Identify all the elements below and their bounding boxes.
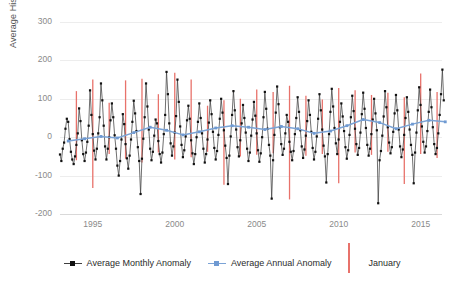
monthly-point [429, 88, 431, 90]
monthly-point [350, 116, 352, 118]
monthly-point [156, 122, 158, 124]
monthly-point [66, 118, 68, 120]
monthly-point [175, 115, 177, 117]
monthly-point [101, 99, 103, 101]
monthly-point [59, 153, 61, 155]
monthly-point [264, 91, 266, 93]
monthly-point [298, 111, 300, 113]
monthly-point [137, 146, 139, 148]
monthly-point [83, 160, 85, 162]
legend-label-monthly: Average Monthly Anomaly [87, 258, 191, 268]
monthly-point [201, 132, 203, 134]
gridline [60, 214, 442, 215]
monthly-point [331, 88, 333, 90]
monthly-point [302, 157, 304, 159]
monthly-point [262, 116, 264, 118]
monthly-anomaly-markers [59, 69, 445, 205]
monthly-point [205, 153, 207, 155]
annual-point [116, 137, 119, 140]
monthly-point [314, 151, 316, 153]
monthly-point [439, 114, 441, 116]
monthly-point [186, 119, 188, 121]
monthly-point [152, 151, 154, 153]
monthly-point [290, 151, 292, 153]
monthly-point [418, 86, 420, 88]
monthly-point [378, 159, 380, 161]
monthly-point [377, 202, 379, 204]
monthly-point [393, 112, 395, 114]
monthly-point [261, 136, 263, 138]
monthly-point [119, 160, 121, 162]
monthly-point [163, 133, 165, 135]
monthly-point [232, 90, 234, 92]
monthly-point [291, 159, 293, 161]
monthly-point [336, 153, 338, 155]
monthly-point [275, 112, 277, 114]
monthly-point [213, 147, 215, 149]
monthly-point [105, 158, 107, 160]
y-axis-tick-labels: 3002001000-100-200 [0, 0, 58, 291]
monthly-point [273, 134, 275, 136]
x-axis-tick-label: 2010 [319, 219, 359, 229]
monthly-point [340, 102, 342, 104]
monthly-point [82, 153, 84, 155]
monthly-point [432, 126, 434, 128]
monthly-point [433, 143, 435, 145]
monthly-point [268, 144, 270, 146]
monthly-point [265, 108, 267, 110]
monthly-point [103, 125, 105, 127]
y-axis-tick-label: 300 [0, 16, 52, 26]
monthly-point [71, 158, 73, 160]
monthly-point [228, 155, 230, 157]
monthly-point [253, 101, 255, 103]
annual-point [67, 140, 70, 143]
monthly-point [286, 114, 288, 116]
legend-item-annual: Average Annual Anomaly [208, 258, 331, 268]
monthly-point [93, 150, 95, 152]
monthly-point [282, 154, 284, 156]
monthly-point [241, 122, 243, 124]
annual-point [296, 127, 299, 130]
monthly-point [126, 157, 128, 159]
monthly-point [227, 183, 229, 185]
monthly-point [224, 145, 226, 147]
monthly-point [317, 118, 319, 120]
monthly-point [171, 155, 173, 157]
monthly-point [399, 145, 401, 147]
monthly-point [369, 148, 371, 150]
monthly-point [157, 140, 159, 142]
monthly-point [145, 82, 147, 84]
monthly-point [220, 98, 222, 100]
monthly-point [138, 160, 140, 162]
data-series-svg [60, 22, 442, 214]
monthly-point [134, 112, 136, 114]
monthly-point [374, 112, 376, 114]
monthly-point [400, 156, 402, 158]
monthly-point [154, 118, 156, 120]
monthly-point [329, 111, 331, 113]
monthly-point [191, 152, 193, 154]
monthly-point [221, 112, 223, 114]
monthly-point [338, 138, 340, 140]
monthly-point [346, 158, 348, 160]
monthly-point [348, 134, 350, 136]
monthly-point [328, 133, 330, 135]
monthly-point [63, 141, 65, 143]
monthly-point [396, 109, 398, 111]
monthly-point [189, 118, 191, 120]
monthly-point [131, 121, 133, 123]
monthly-point [123, 123, 125, 125]
monthly-point [150, 159, 152, 161]
monthly-point [212, 131, 214, 133]
monthly-point [294, 133, 296, 135]
monthly-point [295, 117, 297, 119]
monthly-point [168, 122, 170, 124]
annual-point [427, 119, 430, 122]
legend-label-january: January [355, 258, 400, 268]
monthly-point [368, 155, 370, 157]
monthly-point [391, 146, 393, 148]
monthly-point [73, 163, 75, 165]
monthly-point [260, 152, 262, 154]
monthly-point [385, 106, 387, 108]
monthly-point [353, 110, 355, 112]
